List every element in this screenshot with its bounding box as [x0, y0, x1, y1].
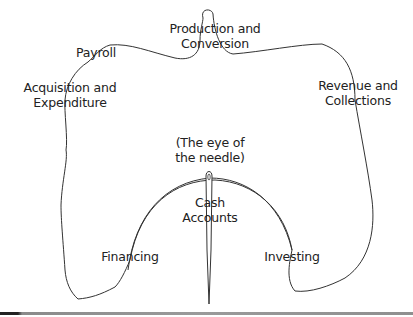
label-financing: Financing	[95, 249, 165, 264]
label-revenue-collections: Revenue and Collections	[303, 78, 413, 108]
label-eye-of-needle: (The eye of the needle)	[165, 135, 255, 165]
label-cash-accounts: Cash Accounts	[175, 195, 245, 225]
label-acquisition-expenditure: Acquisition and Expenditure	[10, 80, 130, 110]
label-payroll: Payroll	[66, 45, 126, 60]
label-production-conversion: Production and Conversion	[155, 21, 275, 51]
business-cycle-diagram: Production and Conversion Payroll Acquis…	[0, 0, 413, 317]
label-investing: Investing	[262, 249, 322, 264]
needle-icon	[206, 172, 212, 305]
bottom-rule	[0, 312, 413, 315]
